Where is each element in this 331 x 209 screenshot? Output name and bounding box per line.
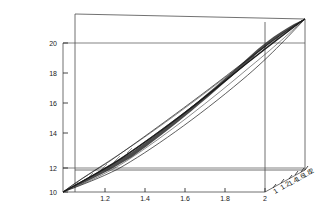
z-tick-label-12: 12 <box>49 165 57 172</box>
plot-3d-surface: 20 18 16 14 12 10 1.2 1.4 1.6 1.8 2 <box>0 0 331 209</box>
surface-fill <box>63 19 305 192</box>
y-tick-label-1: 1 <box>272 187 279 195</box>
z-tick-label-20: 20 <box>49 40 57 47</box>
surface-mesh-line-4 <box>63 19 305 192</box>
surface-edge-lower <box>63 19 305 192</box>
x-tick-label-1.2: 1.2 <box>100 195 110 202</box>
x-tick-label-1.8: 1.8 <box>220 195 230 202</box>
z-tick-label-16: 16 <box>49 100 57 107</box>
surface-ridge-line <box>63 19 305 192</box>
surface-edge-upper <box>63 19 305 192</box>
box-edge-back-top <box>75 14 305 19</box>
x-axis-ticks <box>105 188 265 192</box>
figure-canvas: 20 18 16 14 12 10 1.2 1.4 1.6 1.8 2 <box>0 0 331 209</box>
y-axis-tick-labels: 1 1.2 1.4 1.6 1.8 2 <box>272 167 315 195</box>
x-tick-label-1.6: 1.6 <box>180 195 190 202</box>
surface-mesh-line-2 <box>63 19 305 192</box>
z-axis-ticks <box>63 43 68 192</box>
x-tick-label-2: 2 <box>263 195 267 202</box>
z-tick-label-14: 14 <box>49 130 57 137</box>
z-tick-label-10: 10 <box>49 189 57 196</box>
gridlines-horizontal <box>63 43 305 168</box>
x-tick-label-1.4: 1.4 <box>140 195 150 202</box>
surface-mesh-line-3 <box>63 19 305 192</box>
surface-mesh <box>63 19 305 192</box>
surface-mesh-line-1 <box>63 19 305 192</box>
z-tick-label-18: 18 <box>49 70 57 77</box>
x-axis-tick-labels: 1.2 1.4 1.6 1.8 2 <box>100 195 267 202</box>
z-axis-tick-labels: 20 18 16 14 12 10 <box>49 40 57 196</box>
